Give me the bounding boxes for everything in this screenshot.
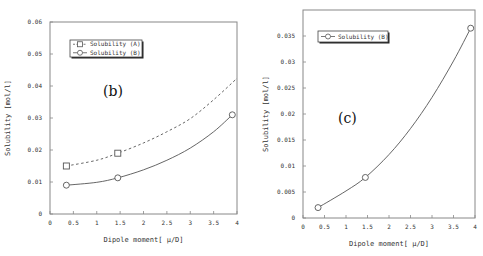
x-tick-label: 2.5: [405, 223, 416, 230]
panel-label: (b): [103, 83, 123, 99]
y-tick-label: 0.03: [281, 58, 296, 65]
legend-label: Solubility (A): [90, 40, 141, 48]
legend-label: Solubility (B): [338, 33, 389, 41]
x-tick-label: 2.5: [161, 219, 172, 226]
x-axis-label: Dipole moment[ μ/D]: [349, 240, 429, 248]
circle-marker-icon: [229, 112, 235, 118]
legend: Solubility (B): [318, 31, 390, 44]
panel-label: (c): [338, 110, 357, 126]
circle-marker-icon: [468, 25, 474, 31]
x-tick-label: 3: [430, 223, 434, 230]
x-tick-label: 4: [473, 223, 477, 230]
square-marker-icon: [63, 163, 69, 169]
x-tick-label: 3.5: [208, 219, 219, 226]
x-tick-label: 3.5: [448, 223, 459, 230]
series-line-solubility-b: [66, 115, 232, 185]
circle-marker-icon: [115, 175, 121, 181]
y-tick-label: 0.04: [28, 82, 43, 89]
x-tick-label: 0.5: [319, 223, 330, 230]
x-tick-label: 3: [188, 219, 192, 226]
series-line-solubility-a: [66, 78, 237, 166]
y-tick-label: 0.06: [28, 18, 43, 25]
x-tick-label: 1.5: [115, 219, 126, 226]
x-axis-label: Dipole moment[ μ/D]: [103, 236, 183, 244]
x-tick-label: 0.5: [68, 219, 79, 226]
legend: Solubility (A)Solubility (B): [70, 40, 144, 59]
circle-marker-icon: [315, 205, 321, 211]
x-tick-label: 2: [142, 219, 146, 226]
y-tick-label: 0.05: [28, 50, 43, 57]
legend-circle-icon: [78, 50, 83, 55]
y-tick-label: 0.025: [277, 84, 295, 91]
figure: 00.511.522.533.5400.010.020.030.040.050.…: [0, 0, 483, 256]
x-tick-label: 4: [235, 219, 239, 226]
square-marker-icon: [115, 150, 121, 156]
x-tick-label: 1.5: [362, 223, 373, 230]
y-tick-label: 0.02: [28, 146, 43, 153]
x-tick-label: 0: [48, 219, 52, 226]
y-tick-label: 0.03: [28, 114, 43, 121]
y-tick-label: 0.01: [281, 162, 296, 169]
legend-circle-icon: [326, 34, 331, 39]
x-tick-label: 1: [344, 223, 348, 230]
y-tick-label: 0: [291, 214, 295, 221]
chart-b: 00.511.522.533.5400.010.020.030.040.050.…: [4, 18, 239, 244]
x-tick-label: 2: [387, 223, 391, 230]
legend-label: Solubility (B): [90, 49, 141, 57]
y-tick-label: 0.01: [28, 178, 43, 185]
circle-marker-icon: [362, 174, 368, 180]
y-tick-label: 0.035: [277, 32, 295, 39]
y-axis-label: Solubility [mol/l]: [4, 80, 12, 156]
chart-c: 00.511.522.533.5400.0050.010.0150.020.02…: [262, 10, 477, 248]
circle-marker-icon: [63, 182, 69, 188]
x-tick-label: 1: [95, 219, 99, 226]
legend-square-icon: [78, 42, 83, 47]
y-tick-label: 0.015: [277, 136, 295, 143]
y-axis-label: Solubility [mol/l]: [262, 76, 270, 152]
y-tick-label: 0.005: [277, 188, 295, 195]
y-tick-label: 0.02: [281, 110, 296, 117]
x-tick-label: 0: [301, 223, 305, 230]
y-tick-label: 0: [38, 210, 42, 217]
